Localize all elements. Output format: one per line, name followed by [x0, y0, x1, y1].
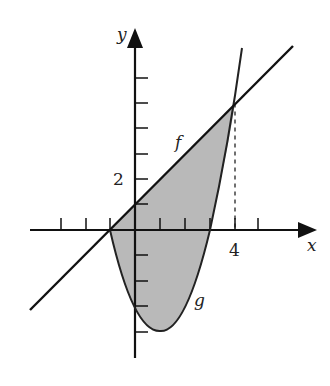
y-tick-label-2: 2 — [113, 169, 124, 189]
label-g: g — [194, 290, 205, 310]
x-ticks — [61, 218, 258, 230]
x-axis-label: x — [307, 235, 317, 255]
shaded-region — [110, 104, 235, 332]
label-f: f — [173, 132, 184, 152]
x-tick-label-4: 4 — [229, 240, 240, 260]
y-axis-label: y — [116, 24, 127, 44]
diagram: y x 4 2 f g — [0, 0, 330, 386]
y-axis-arrow-icon — [127, 28, 143, 48]
